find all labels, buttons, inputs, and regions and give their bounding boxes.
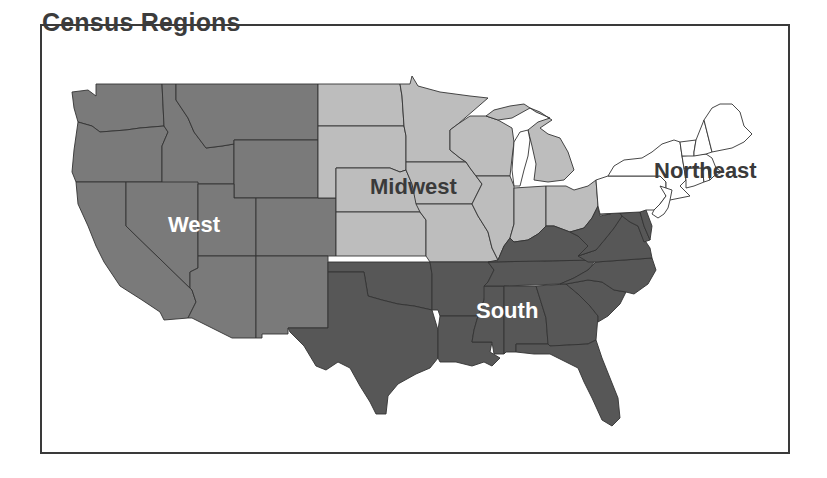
label-west: West: [168, 212, 221, 237]
state-maine[interactable]: [704, 104, 752, 152]
us-census-regions-map: West Midwest South Northeast: [0, 0, 827, 478]
state-florida[interactable]: [516, 340, 620, 426]
state-colorado[interactable]: [256, 198, 336, 256]
state-new-mexico[interactable]: [256, 256, 328, 338]
label-northeast: Northeast: [654, 158, 757, 183]
state-wyoming[interactable]: [234, 140, 318, 198]
state-arizona[interactable]: [188, 256, 256, 338]
label-south: South: [476, 298, 538, 323]
state-north-dakota[interactable]: [318, 84, 404, 126]
label-midwest: Midwest: [370, 174, 457, 199]
region-west: [72, 84, 336, 338]
lake-michigan: [512, 130, 530, 186]
state-kansas[interactable]: [336, 212, 426, 256]
state-oregon[interactable]: [72, 122, 168, 182]
great-lakes: [512, 130, 530, 186]
